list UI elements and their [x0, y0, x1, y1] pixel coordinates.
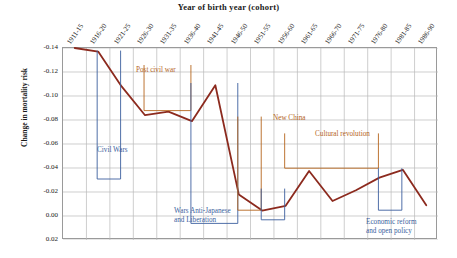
y-tick-label: 0.00 [24, 211, 58, 219]
x-axis-ticks: 1911-151916-201921-251926-301931-351936-… [62, 0, 437, 47]
x-tick-label: 1951-55 [253, 22, 273, 46]
x-tick-label: 1986-90 [417, 22, 437, 46]
y-tick-label: 0.02 [24, 235, 58, 243]
x-tick-label: 1916-20 [89, 22, 109, 46]
x-tick-label: 1956-60 [276, 22, 296, 46]
annotation-brackets [62, 47, 437, 239]
y-tick-label: -0.06 [24, 139, 58, 147]
y-tick-label: -0.02 [24, 187, 58, 195]
x-tick-label: 1931-35 [159, 22, 179, 46]
x-tick-label: 1946-50 [229, 22, 249, 46]
x-tick-label: 1961-65 [300, 22, 320, 46]
x-tick-label: 1966-70 [323, 22, 343, 46]
chart-figure: Year of birth year (cohort) Change in mo… [0, 0, 457, 258]
y-tick-label: -0.12 [24, 67, 58, 75]
x-tick-label: 1981-85 [393, 22, 413, 46]
y-axis-ticks: -0.14-0.12-0.10-0.08-0.06-0.04-0.020.000… [22, 0, 58, 258]
y-tick-label: -0.08 [24, 115, 58, 123]
y-tick-label: -0.10 [24, 91, 58, 99]
x-tick-label: 1976-80 [370, 22, 390, 46]
y-tick-label: -0.04 [24, 163, 58, 171]
y-tick-label: -0.14 [24, 43, 58, 51]
x-tick-label: 1971-75 [346, 22, 366, 46]
x-tick-label: 1911-15 [65, 23, 85, 46]
x-tick-label: 1941-45 [206, 22, 226, 46]
x-tick-label: 1936-40 [182, 22, 202, 46]
x-tick-label: 1921-25 [112, 22, 132, 46]
x-tick-label: 1926-30 [135, 22, 155, 46]
